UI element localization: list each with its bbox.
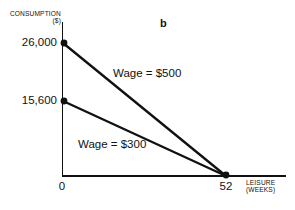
- endpoint-marker-26000: [61, 40, 68, 47]
- y-tick-label-26000: 26,000: [3, 36, 57, 48]
- y-axis-title-text: CONSUMPTION: [10, 10, 61, 17]
- y-axis-title: CONSUMPTION ($): [4, 11, 61, 25]
- curve-label-wage-500: Wage = $500: [113, 67, 181, 79]
- panel-letter: b: [160, 18, 167, 30]
- endpoint-marker-15600: [61, 98, 68, 105]
- y-axis-unit-text: ($): [4, 18, 61, 25]
- y-tick-label-15600: 15,600: [3, 94, 57, 106]
- x-axis-title: LEISURE (WEEKS): [246, 180, 275, 194]
- curve-label-wage-300: Wage = $300: [78, 138, 146, 150]
- x-axis-unit-text: (WEEKS): [246, 187, 275, 194]
- budget-constraint-figure: CONSUMPTION ($) 26,000 15,600 0 52 LEISU…: [0, 0, 295, 210]
- x-tick-label-52: 52: [213, 180, 239, 192]
- endpoint-marker-52-weeks: [223, 172, 230, 179]
- x-tick-label-0: 0: [49, 180, 75, 192]
- x-axis-title-text: LEISURE: [246, 179, 275, 186]
- budget-line-wage-500: [63, 43, 226, 176]
